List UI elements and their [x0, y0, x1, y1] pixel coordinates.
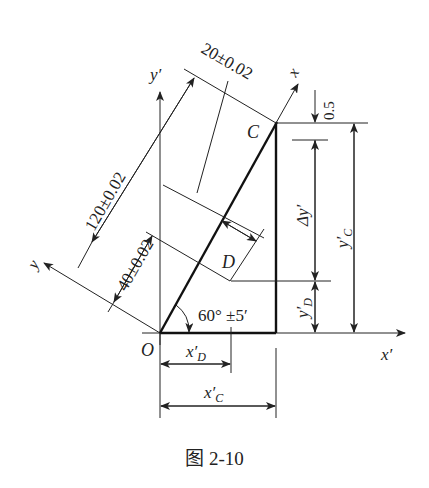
- dimension-x-c: x′C: [161, 383, 275, 406]
- dimension-x-d-label: x′D: [185, 342, 206, 364]
- angle-60: 60° ±5′: [176, 305, 248, 332]
- dimension-x-d: x′D: [161, 342, 230, 364]
- dimension-x-c-label: x′C: [203, 383, 224, 405]
- point-d-label: D: [221, 252, 235, 272]
- x-axis-label: x: [283, 65, 302, 81]
- dimension-y-c-label: y′C: [333, 228, 355, 250]
- extension-line-mid: [163, 185, 264, 238]
- dimension-120-label: 120±0.02: [81, 169, 130, 234]
- dimension-120: 120±0.02: [78, 78, 194, 268]
- extension-line-c: [184, 69, 276, 123]
- offset-line-d: [230, 229, 264, 281]
- point-c-label: C: [247, 122, 260, 142]
- angle-label: 60° ±5′: [198, 306, 248, 325]
- dimension-delta-y: Δy′: [293, 141, 315, 280]
- y-prime-axis: y′: [148, 65, 162, 345]
- extension-line-d: [146, 232, 230, 281]
- dimension-y-d-label: y′D: [293, 298, 315, 320]
- dimension-y-d: y′D: [293, 282, 315, 332]
- point-o-label: O: [141, 340, 154, 360]
- x-prime-axis: x′: [142, 333, 405, 364]
- dimension-40: 40±0.02: [108, 236, 158, 312]
- x-axis: x: [276, 65, 302, 123]
- dimension-0.5-label: 0.5: [321, 101, 337, 120]
- dimension-delta-y-label: Δy′: [293, 204, 312, 227]
- geometry-diagram: y′ x′ x y 120±0.02 40±0.02: [0, 0, 429, 488]
- dimension-y-c: y′C: [333, 124, 355, 332]
- y-prime-axis-label: y′: [148, 65, 162, 84]
- dimension-20-label: 20±0.02: [198, 39, 256, 84]
- line-oc: [160, 122, 277, 333]
- y-axis-label: y: [23, 256, 44, 274]
- figure-caption: 图 2-10: [0, 443, 429, 470]
- dimension-0.5: 0.5: [315, 90, 337, 150]
- x-prime-axis-label: x′: [380, 345, 393, 364]
- dimension-40-label: 40±0.02: [113, 236, 158, 294]
